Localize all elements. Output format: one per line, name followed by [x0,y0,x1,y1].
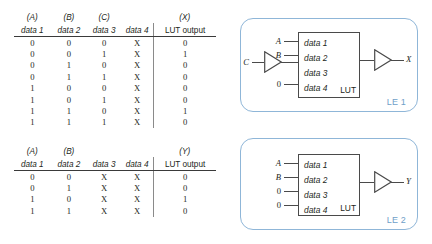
signal-header-x: (X) [154,10,216,23]
cell-data-3: 1 [87,48,121,59]
cell-data-2: 0 [51,94,88,105]
table-row: 1 0 X X 1 [14,194,216,205]
cell-data-2: 0 [51,37,88,49]
le1-lut-input-data-2: data 2 [304,51,327,66]
cell-data-3: 0 [87,37,121,49]
le2-output-label-y: Y [406,176,411,186]
table-row: 0 0 1 X 1 [14,48,216,59]
le2-wire-lut-to-output-gate [360,182,374,183]
signal-header-blank-3 [87,144,121,157]
le2-lut-label: LUT [340,203,356,213]
signal-header-a: (A) [14,10,51,23]
le1-lut-input-list: data 1 data 2 data 3 data 4 [304,36,327,96]
le1-wire-output-gate-to-x [391,60,404,61]
cell-data-4: X [121,94,154,105]
cell-lut-output: 1 [154,105,216,116]
le2-wire-zero-to-data3 [284,191,298,192]
table-row: 0 1 0 X 0 [14,60,216,71]
cell-data-4: X [121,37,154,49]
cell-data-3: 1 [87,94,121,105]
cell-lut-output: 1 [154,48,216,59]
signal-header-blank-4 [121,144,154,157]
le1-wire-zero-to-data4 [284,84,298,85]
signal-header-c: (C) [87,10,121,23]
table-signal-header-row: (A) (B) (Y) [14,144,216,157]
le2-lut-input-data-4: data 4 [304,203,327,218]
le2-wire-output-gate-to-y [391,182,404,183]
cell-data-1: 0 [14,37,51,49]
le1-lut-box: data 1 data 2 data 3 data 4 LUT [298,32,360,98]
cell-lut-output: 1 [154,194,216,205]
cell-data-4: X [121,48,154,59]
column-header-data-3: data 3 [87,23,121,37]
table-row: 0 0 X X 0 [14,171,216,183]
column-header-lut-output: LUT output [154,157,216,171]
cell-lut-output: 0 [154,171,216,183]
cell-data-2: 1 [51,182,88,193]
table-column-header-row: data 1 data 2 data 3 data 4 LUT output [14,157,216,171]
cell-data-1: 0 [14,71,51,82]
cell-lut-output: 0 [154,71,216,82]
cell-data-3: 0 [87,60,121,71]
logic-element-1-panel: C A B 0 data 1 data 2 data 3 data 4 LUT [240,18,418,112]
le2-lut-input-list: data 1 data 2 data 3 data 4 [304,158,327,218]
table-row: 0 0 0 X 0 [14,37,216,49]
signal-header-b: (B) [51,10,88,23]
cell-data-1: 1 [14,105,51,116]
le1-lut-label: LUT [340,85,356,95]
cell-data-3: X [87,182,121,193]
column-header-data-1: data 1 [14,23,51,37]
cell-data-2: 0 [51,48,88,59]
le2-input-label-b: B [267,172,281,182]
cell-data-3: 1 [87,117,121,128]
cell-lut-output: 0 [154,205,216,216]
cell-data-4: X [121,171,154,183]
cell-data-2: 1 [51,105,88,116]
le2-label: LE 2 [387,215,406,225]
cell-data-2: 1 [51,117,88,128]
le1-wire-lut-to-output-gate [360,60,374,61]
signal-header-y: (Y) [154,144,216,157]
table-row: 0 1 X X 0 [14,182,216,193]
column-header-data-4: data 4 [121,23,154,37]
cell-data-3: 0 [87,83,121,94]
signal-header-a: (A) [14,144,51,157]
le1-input-label-b: B [267,50,281,60]
cell-lut-output: 0 [154,182,216,193]
column-header-data-2: data 2 [51,23,88,37]
le2-input-label-zero-3: 0 [267,186,281,196]
le1-label: LE 1 [387,97,406,107]
cell-data-4: X [121,194,154,205]
cell-lut-output: 0 [154,83,216,94]
le2-lut-input-data-3: data 3 [304,188,327,203]
truth-table-lut-x: (A) (B) (C) (X) data 1 data 2 data 3 dat… [14,10,216,128]
cell-data-3: X [87,194,121,205]
cell-data-4: X [121,83,154,94]
cell-data-2: 0 [51,194,88,205]
logic-element-2-panel: A B 0 0 data 1 data 2 data 3 data 4 LUT … [240,138,418,230]
truth-table-lut-y: (A) (B) (Y) data 1 data 2 data 3 data 4 … [14,144,216,217]
table-row: 1 1 1 X 0 [14,117,216,128]
le1-lut-input-data-4: data 4 [304,81,327,96]
cell-data-3: 0 [87,105,121,116]
cell-data-1: 0 [14,48,51,59]
le2-wire-b-to-data2 [284,177,298,178]
cell-data-3: X [87,205,121,216]
cell-data-1: 0 [14,171,51,183]
cell-lut-output: 0 [154,60,216,71]
le1-wire-a-to-data1 [284,41,298,42]
cell-data-4: X [121,60,154,71]
le2-lut-box: data 1 data 2 data 3 data 4 LUT [298,154,360,216]
le1-lut-input-data-3: data 3 [304,66,327,81]
le2-wire-a-to-data1 [284,163,298,164]
cell-data-1: 1 [14,117,51,128]
le1-wire-gate-to-data3 [281,62,298,63]
signal-header-blank [121,10,154,23]
column-header-data-2: data 2 [51,157,88,171]
signal-header-b: (B) [51,144,88,157]
cell-data-1: 0 [14,182,51,193]
le2-wire-zero-to-data4 [284,205,298,206]
le2-input-label-a: A [267,158,281,168]
table-row: 0 1 1 X 0 [14,71,216,82]
cell-data-2: 0 [51,171,88,183]
